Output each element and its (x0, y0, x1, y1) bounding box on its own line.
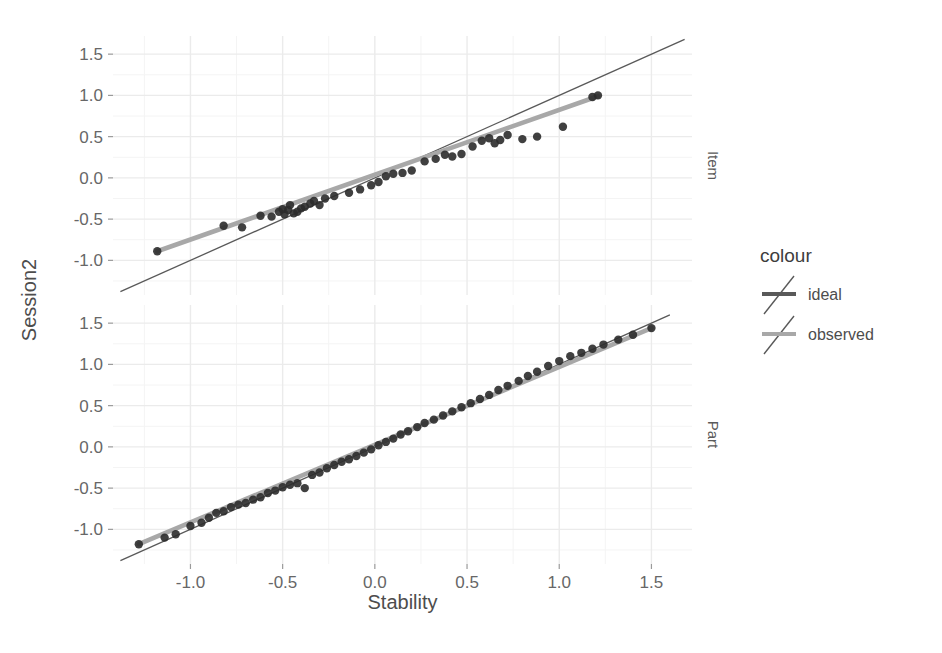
data-point (457, 150, 465, 158)
data-point (374, 441, 382, 449)
data-point (430, 415, 438, 423)
data-point (389, 170, 397, 178)
data-point (153, 247, 161, 255)
data-point (408, 166, 416, 174)
data-point (308, 471, 316, 479)
scatter-plot-figure: -1.0-0.50.00.51.01.5Item-1.0-0.50.00.51.… (0, 0, 942, 653)
data-point (135, 540, 143, 548)
data-point (234, 500, 242, 508)
data-point (599, 340, 607, 348)
facet-strip-label: Part (705, 421, 722, 449)
data-point (356, 185, 364, 193)
data-point (404, 427, 412, 435)
data-point (588, 345, 596, 353)
data-point (441, 151, 449, 159)
data-point (518, 135, 526, 143)
y-tick-label: -0.5 (74, 479, 103, 498)
y-tick-label: 0.0 (79, 169, 103, 188)
data-point (468, 142, 476, 150)
legend-entry-label: ideal (808, 286, 842, 303)
data-point (256, 493, 264, 501)
data-point (264, 489, 272, 497)
data-point (494, 386, 502, 394)
data-point (485, 391, 493, 399)
data-point (647, 324, 655, 332)
data-point (478, 137, 486, 145)
legend-entry-label: observed (808, 326, 874, 343)
data-point (533, 132, 541, 140)
data-point (533, 368, 541, 376)
y-tick-label: 0.5 (79, 128, 103, 147)
data-point (160, 533, 168, 541)
data-point (321, 194, 329, 202)
data-point (555, 357, 563, 365)
data-point (293, 479, 301, 487)
x-tick-label: 1.0 (547, 573, 571, 592)
data-point (212, 509, 220, 517)
data-point (367, 181, 375, 189)
data-point (503, 382, 511, 390)
data-point (496, 136, 504, 144)
y-tick-label: 0.0 (79, 438, 103, 457)
data-point (524, 372, 532, 380)
data-point (448, 152, 456, 160)
data-point (420, 157, 428, 165)
data-point (413, 423, 421, 431)
data-point (629, 330, 637, 338)
y-tick-label: -1.0 (74, 251, 103, 270)
data-point (171, 530, 179, 538)
x-tick-label: 0.0 (363, 573, 387, 592)
x-tick-label: 0.5 (455, 573, 479, 592)
data-point (544, 362, 552, 370)
data-point (271, 486, 279, 494)
data-point (286, 481, 294, 489)
data-point (398, 169, 406, 177)
data-point (467, 399, 475, 407)
data-point (330, 192, 338, 200)
facet-panel-item: -1.0-0.50.00.51.01.5Item (74, 36, 722, 295)
data-point (374, 178, 382, 186)
facet-panel-part: -1.0-0.50.00.51.01.5Part (74, 305, 722, 564)
data-point (577, 349, 585, 357)
data-point (476, 395, 484, 403)
data-point (352, 452, 360, 460)
data-point (238, 223, 246, 231)
y-tick-label: 0.5 (79, 397, 103, 416)
data-point (345, 189, 353, 197)
data-point (439, 411, 447, 419)
data-point (227, 503, 235, 511)
data-point (249, 495, 257, 503)
plot-root: -1.0-0.50.00.51.01.5Item-1.0-0.50.00.51.… (0, 0, 942, 653)
data-point (278, 483, 286, 491)
y-tick-label: 1.0 (79, 355, 103, 374)
data-point (197, 519, 205, 527)
data-point (345, 455, 353, 463)
data-point (267, 212, 275, 220)
data-point (514, 377, 522, 385)
data-point (566, 352, 574, 360)
legend-title: colour (760, 245, 812, 266)
data-point (315, 468, 323, 476)
data-point (205, 514, 213, 522)
data-point (219, 222, 227, 230)
data-point (256, 212, 264, 220)
data-point (315, 201, 323, 209)
data-point (503, 131, 511, 139)
y-tick-label: -0.5 (74, 210, 103, 229)
y-axis-title: Session2 (18, 259, 40, 341)
data-point (594, 91, 602, 99)
data-point (448, 407, 456, 415)
x-tick-label: -0.5 (268, 573, 297, 592)
y-tick-label: -1.0 (74, 520, 103, 539)
x-tick-label: -1.0 (176, 573, 205, 592)
data-point (186, 522, 194, 530)
y-tick-label: 1.0 (79, 86, 103, 105)
data-point (360, 448, 368, 456)
data-point (559, 123, 567, 131)
data-point (367, 445, 375, 453)
y-tick-label: 1.5 (79, 314, 103, 333)
data-point (301, 484, 309, 492)
data-point (396, 430, 404, 438)
data-point (382, 438, 390, 446)
data-point (382, 172, 390, 180)
